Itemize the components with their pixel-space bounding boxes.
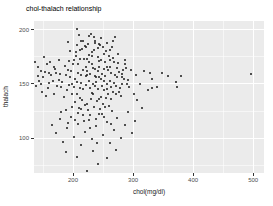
data-point	[123, 78, 125, 80]
data-point	[86, 70, 88, 72]
data-point	[82, 69, 84, 71]
data-point	[49, 61, 51, 63]
data-point	[90, 98, 92, 100]
data-point	[65, 109, 67, 111]
data-point	[114, 36, 116, 38]
major-gridline-vertical	[193, 21, 194, 173]
data-point	[89, 73, 91, 75]
data-point	[75, 55, 77, 57]
data-point	[85, 66, 87, 68]
data-point	[85, 75, 87, 77]
data-point	[80, 40, 82, 42]
data-point	[69, 76, 71, 78]
data-point	[103, 80, 105, 82]
y-axis-title: thalach	[2, 21, 10, 173]
data-point	[133, 93, 135, 95]
data-point	[113, 61, 115, 63]
data-point	[94, 40, 96, 42]
data-point	[64, 65, 66, 67]
data-point	[58, 59, 60, 61]
data-point	[77, 63, 79, 65]
data-point	[99, 108, 101, 110]
data-point	[99, 44, 101, 46]
data-point	[96, 100, 98, 102]
data-point	[67, 41, 69, 43]
data-point	[102, 134, 104, 136]
data-point	[38, 80, 40, 82]
data-point	[89, 87, 91, 89]
minor-gridline-horizontal	[34, 56, 264, 57]
data-point	[68, 84, 70, 86]
major-gridline-vertical	[133, 21, 134, 173]
x-axis-tick	[253, 173, 254, 176]
data-point	[46, 63, 48, 65]
data-point	[116, 67, 118, 69]
data-point	[180, 75, 182, 77]
data-point	[82, 114, 84, 116]
data-point	[104, 106, 106, 108]
x-axis-tick-label: 200	[63, 177, 83, 183]
data-point	[79, 58, 81, 60]
data-point	[89, 114, 91, 116]
data-point	[100, 96, 102, 98]
data-point	[106, 66, 108, 68]
data-point	[149, 72, 151, 74]
x-axis-tick	[193, 173, 194, 176]
data-point	[147, 89, 149, 91]
minor-gridline-horizontal	[34, 111, 264, 112]
data-point	[52, 80, 54, 82]
y-axis-tick	[31, 138, 34, 139]
data-point	[106, 121, 108, 123]
data-point	[107, 69, 109, 71]
data-point	[88, 119, 90, 121]
data-point	[109, 142, 111, 144]
data-point	[86, 103, 88, 105]
data-point	[61, 81, 63, 83]
data-point	[95, 125, 97, 127]
data-point	[82, 88, 84, 90]
x-axis-tick-label: 400	[183, 177, 203, 183]
data-point	[59, 118, 61, 120]
data-point	[83, 120, 85, 122]
data-point	[43, 56, 45, 58]
data-point	[124, 59, 126, 61]
data-point	[108, 105, 110, 107]
x-axis-title: chol(mg/dl)	[34, 188, 264, 195]
data-point	[53, 66, 55, 68]
data-point	[91, 63, 93, 65]
data-point	[107, 93, 109, 95]
data-point	[127, 111, 129, 113]
data-point	[104, 75, 106, 77]
data-point	[103, 53, 105, 55]
data-point	[109, 80, 111, 82]
data-point	[106, 88, 108, 90]
plot-panel	[34, 21, 264, 173]
data-point	[112, 57, 114, 59]
data-point	[60, 86, 62, 88]
data-point	[116, 117, 118, 119]
data-point	[78, 34, 80, 36]
data-point	[103, 68, 105, 70]
scatter-plot-figure: chol-thalach relationship thalach chol(m…	[0, 0, 273, 206]
minor-gridline-vertical	[223, 21, 224, 173]
data-point	[120, 95, 122, 97]
data-point	[76, 156, 78, 158]
minor-gridline-vertical	[43, 21, 44, 173]
data-point	[110, 86, 112, 88]
data-point	[68, 60, 70, 62]
data-point	[65, 151, 67, 153]
data-point	[105, 97, 107, 99]
data-point	[79, 87, 81, 89]
data-point	[109, 59, 111, 61]
data-point	[65, 74, 67, 76]
data-point	[136, 99, 138, 101]
data-point	[103, 116, 105, 118]
data-point	[59, 73, 61, 75]
data-point	[109, 49, 111, 51]
data-point	[139, 83, 141, 85]
data-point	[124, 124, 126, 126]
data-point	[118, 71, 120, 73]
data-point	[106, 42, 108, 44]
data-point	[40, 83, 42, 85]
x-axis-tick-label: 500	[243, 177, 263, 183]
